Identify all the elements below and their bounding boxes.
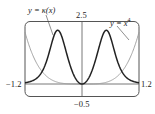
kappa-leader-line bbox=[46, 15, 53, 35]
x4-annotation: y = x4 bbox=[110, 17, 131, 27]
x4-annotation-exponent: 4 bbox=[128, 17, 131, 23]
y-max-tick-label: 2.5 bbox=[76, 11, 87, 20]
x-min-tick-label: −1.2 bbox=[6, 80, 21, 89]
x4-annotation-base: y = x bbox=[110, 18, 128, 28]
x4-leader-line bbox=[117, 26, 129, 40]
y-min-tick-label: −0.5 bbox=[74, 100, 89, 109]
x-max-tick-label: 1.2 bbox=[141, 80, 152, 89]
kappa-annotation: y = κ(x) bbox=[28, 6, 55, 15]
